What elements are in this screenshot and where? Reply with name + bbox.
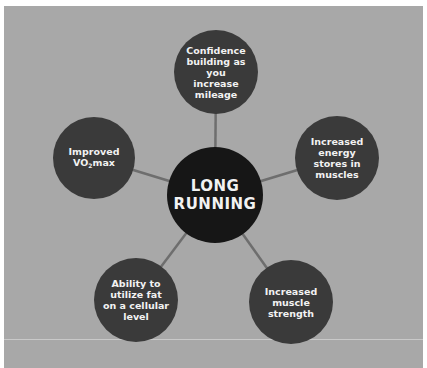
center-node-long-running: LONG RUNNING bbox=[167, 147, 263, 243]
node-label: Ability to utilize fat on a cellular lev… bbox=[94, 278, 178, 322]
label-suffix: max bbox=[93, 157, 115, 168]
node-energy-stores: Increased energy stores in muscles bbox=[295, 116, 379, 200]
node-muscle-strength: Increased muscle strength bbox=[249, 260, 333, 344]
node-vo2max: Improved VO2max bbox=[53, 117, 135, 199]
center-label-line2: RUNNING bbox=[174, 195, 257, 213]
node-label: Improved VO2max bbox=[53, 146, 135, 171]
node-confidence: Confidence building as you increase mile… bbox=[174, 30, 258, 114]
node-label: Confidence building as you increase mile… bbox=[174, 45, 258, 100]
center-label: LONG RUNNING bbox=[166, 177, 265, 213]
node-label: Increased energy stores in muscles bbox=[295, 136, 379, 180]
center-label-line1: LONG bbox=[174, 177, 257, 195]
node-label: Increased muscle strength bbox=[247, 286, 335, 319]
node-fat-utilization: Ability to utilize fat on a cellular lev… bbox=[94, 258, 178, 342]
